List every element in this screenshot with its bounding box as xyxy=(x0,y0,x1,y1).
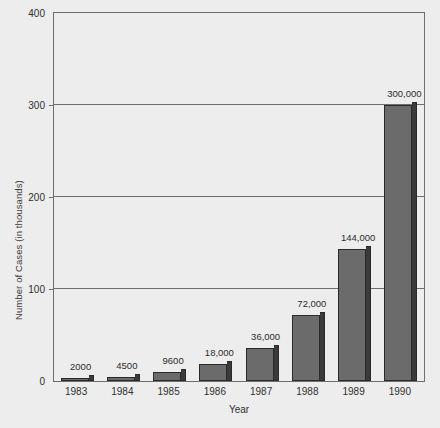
gridline xyxy=(54,104,424,105)
bar: 4500 xyxy=(107,374,140,381)
bar-value-label: 36,000 xyxy=(240,331,292,342)
bar-chart: Number of Cases (in thousands) 010020030… xyxy=(0,0,440,428)
bar: 72,000 xyxy=(292,312,325,381)
bar-side-3d xyxy=(412,102,417,381)
bar: 36,000 xyxy=(246,345,279,381)
x-axis-tick-label: 1990 xyxy=(375,386,425,397)
bar-face xyxy=(246,348,274,381)
x-axis-tick-label: 1986 xyxy=(190,386,240,397)
bar-side-3d xyxy=(320,312,325,381)
bar-side-3d xyxy=(366,246,371,381)
x-axis-title: Year xyxy=(53,404,425,415)
bar-value-label: 2000 xyxy=(55,361,107,372)
bar: 2000 xyxy=(61,375,94,381)
bar-side-3d xyxy=(135,374,140,381)
x-axis-tick-label: 1985 xyxy=(144,386,194,397)
bar-side-3d xyxy=(227,361,232,381)
x-axis-tick-label: 1988 xyxy=(282,386,332,397)
gridline xyxy=(54,196,424,197)
bar-side-3d xyxy=(89,375,94,381)
x-axis-tick-labels: 19831984198519861987198819891990 xyxy=(53,386,425,400)
x-axis-tick-label: 1987 xyxy=(236,386,286,397)
bar-side-3d xyxy=(181,369,186,381)
bar-face xyxy=(292,315,320,381)
x-axis-tick-label: 1984 xyxy=(97,386,147,397)
bar-value-label: 72,000 xyxy=(286,298,338,309)
bar-face xyxy=(199,364,227,381)
bar: 144,000 xyxy=(338,246,371,381)
bar-face xyxy=(384,105,412,381)
x-axis-tick-label: 1989 xyxy=(329,386,379,397)
y-axis-ticks: 0100200300400 xyxy=(0,12,53,383)
y-axis-tick-label: 400 xyxy=(1,8,53,19)
bar-value-label: 300,000 xyxy=(378,88,430,99)
bar-side-3d xyxy=(274,345,279,381)
bar: 18,000 xyxy=(199,361,232,381)
bar-value-label: 9600 xyxy=(147,355,199,366)
plot-area: 20004500960018,00036,00072,000144,000300… xyxy=(53,12,425,382)
bar-face xyxy=(153,372,181,381)
bar: 300,000 xyxy=(384,102,417,381)
y-axis-tick-label: 300 xyxy=(1,100,53,111)
bar-face xyxy=(107,377,135,381)
bar-value-label: 4500 xyxy=(101,360,153,371)
y-axis-tick-label: 200 xyxy=(1,192,53,203)
bar: 9600 xyxy=(153,369,186,381)
x-axis-tick-label: 1983 xyxy=(51,386,101,397)
bar-value-label: 144,000 xyxy=(332,232,384,243)
bar-face xyxy=(61,378,89,381)
bar-face xyxy=(338,249,366,381)
y-axis-tick-label: 0 xyxy=(1,376,53,387)
bar-value-label: 18,000 xyxy=(193,347,245,358)
y-axis-tick-label: 100 xyxy=(1,284,53,295)
